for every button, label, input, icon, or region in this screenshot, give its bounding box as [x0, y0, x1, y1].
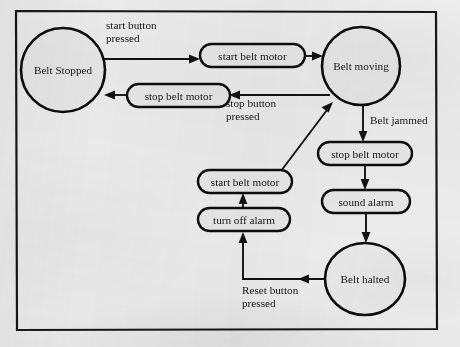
label-start-button-pressed-line2: pressed	[106, 32, 140, 44]
label-reset-button-pressed: Reset button pressed	[242, 284, 299, 309]
label-stop-button-pressed-line2: pressed	[226, 110, 260, 122]
label-stop-button-pressed-line1: stop button	[226, 97, 276, 109]
label-reset-button-pressed-line1: Reset button	[242, 284, 299, 296]
state-belt-stopped[interactable]: Belt Stopped	[21, 28, 105, 112]
state-belt-moving[interactable]: Belt moving	[322, 27, 400, 105]
action-stop-belt-motor-left-label: stop belt motor	[145, 90, 213, 102]
label-belt-jammed: Belt jammed	[370, 114, 428, 126]
edge-alarm-off-to-restart	[239, 193, 248, 208]
edge-to-belt-halted	[362, 213, 371, 243]
action-start-belt-motor-lower[interactable]: start belt motor	[198, 170, 292, 193]
label-reset-button-pressed-line2: pressed	[242, 297, 276, 309]
label-start-button-pressed-line1: start button	[106, 19, 157, 31]
label-start-button-pressed: start button pressed	[106, 19, 157, 44]
action-stop-belt-motor-right[interactable]: stop belt motor	[318, 142, 412, 165]
edge-stop-belt-motor-to-stopped	[104, 91, 127, 100]
edge-motor-started	[305, 52, 323, 61]
action-start-belt-motor-top[interactable]: start belt motor	[200, 44, 305, 67]
state-belt-stopped-label: Belt Stopped	[34, 64, 93, 76]
action-stop-belt-motor-right-label: stop belt motor	[331, 148, 399, 160]
action-sound-alarm-label: sound alarm	[339, 196, 394, 208]
state-belt-halted-label: Belt halted	[341, 273, 390, 285]
action-stop-belt-motor-left[interactable]: stop belt motor	[127, 84, 230, 107]
edge-to-sound-alarm	[361, 165, 370, 190]
edge-belt-jammed	[359, 105, 368, 142]
edge-reset-button-pressed	[239, 232, 326, 283]
action-start-belt-motor-lower-label: start belt motor	[211, 176, 280, 188]
diagram-canvas: Belt Stopped Belt moving Belt halted sta…	[0, 0, 460, 347]
state-transition-diagram: Belt Stopped Belt moving Belt halted sta…	[0, 0, 460, 347]
action-turn-off-alarm[interactable]: turn off alarm	[198, 208, 290, 231]
action-start-belt-motor-top-label: start belt motor	[218, 50, 287, 62]
label-stop-button-pressed: stop button pressed	[226, 97, 276, 122]
state-belt-halted[interactable]: Belt halted	[325, 243, 405, 315]
state-belt-moving-label: Belt moving	[333, 60, 389, 72]
action-turn-off-alarm-label: turn off alarm	[213, 214, 275, 226]
action-sound-alarm[interactable]: sound alarm	[322, 190, 410, 213]
label-belt-jammed-text: Belt jammed	[370, 114, 428, 126]
edge-start-button-pressed	[104, 55, 200, 64]
